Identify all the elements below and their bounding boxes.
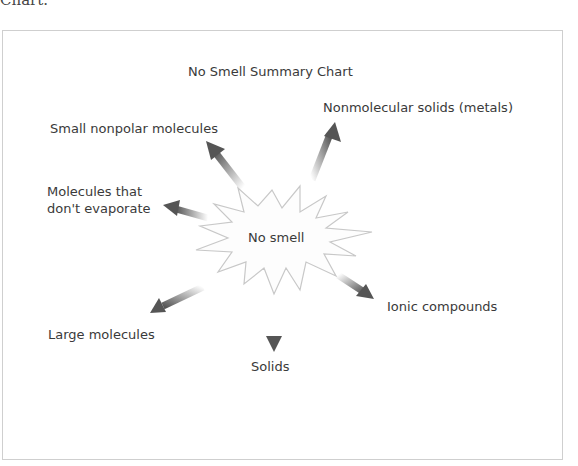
branch-label-nonmolecular-solids: Nonmolecular solids (metals) [323,99,513,116]
arrow-down-right-icon [338,275,374,299]
branch-label-small-nonpolar: Small nonpolar molecules [50,120,218,137]
branch-label-dont-evaporate: Molecules that don't evaporate [47,183,172,217]
arrow-up-left-icon [206,141,243,188]
branch-label-solids: Solids [251,358,289,375]
diagram-title: No Smell Summary Chart [188,63,353,80]
arrow-down-icon [266,296,282,352]
branch-label-large-molecules: Large molecules [48,326,155,343]
arrow-up-right-icon [312,122,341,180]
branch-label-ionic-compounds: Ionic compounds [387,298,497,315]
arrow-down-left-icon [150,287,203,313]
center-label: No smell [248,229,304,246]
